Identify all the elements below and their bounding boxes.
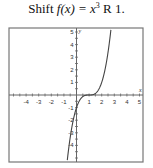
y-tick-label: -1 (68, 105, 74, 111)
x-tick-label: 3 (113, 99, 117, 105)
x-tick-label: 2 (100, 99, 104, 105)
y-tick-label: 3 (70, 54, 74, 60)
y-tick-label: 4 (70, 42, 74, 48)
x-axis-label: x (138, 87, 142, 93)
plot-area: -4-3-2-112345-4-3-2-112345xy (0, 0, 153, 168)
x-tick-label: -3 (36, 99, 42, 105)
y-tick-label: 5 (70, 29, 74, 35)
y-tick-label: 1 (70, 79, 74, 85)
x-tick-label: -2 (49, 99, 55, 105)
x-tick-label: 4 (125, 99, 129, 105)
x-tick-label: 5 (138, 99, 142, 105)
x-tick-label: 1 (87, 99, 91, 105)
x-tick-label: -1 (61, 99, 67, 105)
y-tick-label: 2 (70, 67, 74, 73)
x-tick-label: -4 (23, 99, 29, 105)
y-axis-label: y (78, 28, 82, 34)
